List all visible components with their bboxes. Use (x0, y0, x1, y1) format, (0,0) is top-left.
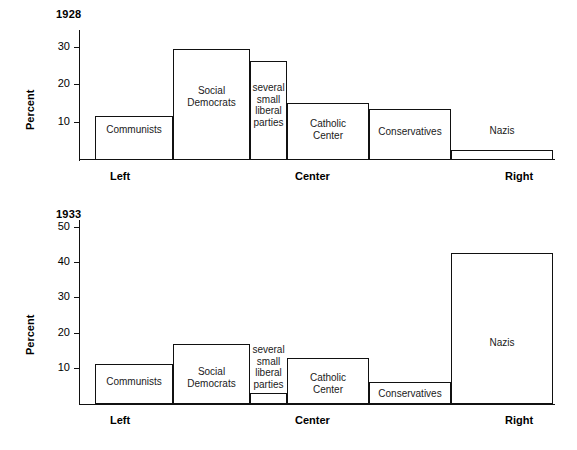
bar-label: Catholic Center (287, 372, 369, 395)
y-tick-label: 50 (40, 220, 70, 232)
group-label: Right (505, 414, 533, 426)
bar-label: Communists (95, 124, 173, 136)
bar-label: several small liberal parties (250, 344, 287, 390)
bar (451, 150, 553, 160)
bar-label: Conservatives (369, 126, 451, 138)
group-label: Left (110, 414, 130, 426)
y-tick-mark (74, 297, 80, 298)
y-tick-label: 20 (40, 77, 70, 89)
chart-1933-y-axis (79, 220, 80, 405)
y-tick-label: 20 (40, 326, 70, 338)
group-label: Center (295, 170, 330, 182)
y-tick-mark (74, 84, 80, 85)
y-tick-mark (74, 47, 80, 48)
y-tick-mark (74, 122, 80, 123)
bar-label: Communists (95, 376, 173, 388)
y-tick-label: 30 (40, 40, 70, 52)
bar (451, 253, 553, 404)
y-tick-label: 40 (40, 255, 70, 267)
chart-1928-year-label: 1928 (56, 8, 81, 20)
bar-label: Social Democrats (173, 85, 250, 108)
group-label: Right (505, 170, 533, 182)
bar-label: Conservatives (369, 388, 451, 400)
chart-1928-y-axis-title: Percent (24, 90, 36, 130)
y-tick-label: 10 (40, 361, 70, 373)
y-tick-label: 10 (40, 115, 70, 127)
bar-label: Catholic Center (287, 118, 369, 141)
y-tick-mark (74, 333, 80, 334)
bar-label: Social Democrats (173, 366, 250, 389)
bar-label: Nazis (451, 337, 553, 349)
group-label: Left (110, 170, 130, 182)
bar-label: Nazis (451, 125, 553, 137)
bar-label: several small liberal parties (250, 82, 287, 128)
y-tick-label: 30 (40, 290, 70, 302)
y-tick-mark (74, 262, 80, 263)
chart-1933-x-axis (79, 404, 555, 405)
y-tick-mark (74, 227, 80, 228)
chart-1933: 1933 Percent 1020304050 CommunistsSocial… (0, 200, 577, 450)
chart-1928: 1928 Percent 102030 CommunistsSocial Dem… (0, 0, 577, 200)
bar (95, 116, 173, 160)
chart-1933-y-axis-title: Percent (24, 315, 36, 355)
y-tick-mark (74, 368, 80, 369)
chart-1933-year-label: 1933 (56, 208, 81, 220)
chart-1928-y-axis (79, 30, 80, 161)
group-label: Center (295, 414, 330, 426)
bar (250, 393, 287, 404)
